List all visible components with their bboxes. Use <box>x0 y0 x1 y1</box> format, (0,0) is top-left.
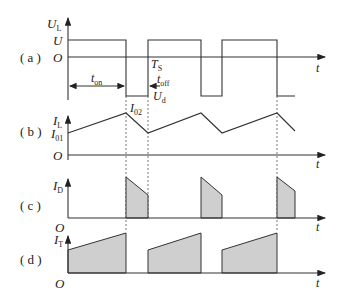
ud-label: Ud <box>153 89 166 105</box>
voltage-waveform <box>68 40 295 96</box>
i02-label: I02 <box>129 101 142 117</box>
panel-b-tag: ( b ) <box>20 124 42 139</box>
diode-current-pulse <box>277 177 295 218</box>
t-label-d: t <box>316 276 320 290</box>
panel-a-tag: ( a ) <box>20 50 41 65</box>
ul-label: UL <box>47 16 61 33</box>
transistor-current-pulse <box>222 233 277 273</box>
t-label-a: t <box>316 61 320 75</box>
origin-a: O <box>53 50 63 65</box>
id-label: ID <box>52 178 63 195</box>
panel-d <box>68 233 325 273</box>
diode-current-pulse <box>201 177 222 218</box>
inductor-current-waveform <box>68 113 295 133</box>
ts-label: TS <box>151 57 162 73</box>
panel-a <box>68 18 325 100</box>
panel-d-tag: ( d ) <box>20 252 42 267</box>
t-label-c: t <box>316 220 320 234</box>
origin-d: O <box>55 276 65 291</box>
diode-current-pulse <box>126 177 148 218</box>
panel-c-tag: ( c ) <box>20 198 41 213</box>
toff-label: toff <box>157 72 170 88</box>
ton-label: ton <box>91 71 102 87</box>
origin-b: O <box>53 148 63 163</box>
transistor-current-pulse <box>68 233 126 273</box>
waveform-diagram: ( a ) UL U O ton TS toff Ud t ( b ) IL I… <box>0 0 341 296</box>
u-level-label: U <box>53 33 64 48</box>
panel-c <box>68 177 325 218</box>
t-label-b: t <box>316 157 320 171</box>
panel-b <box>68 113 325 160</box>
transistor-current-pulse <box>148 233 201 273</box>
